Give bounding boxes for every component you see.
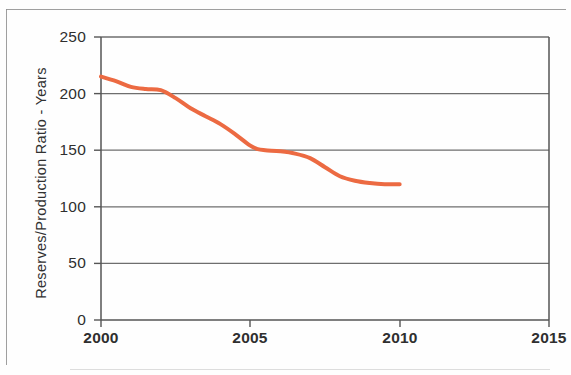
x-tick-label-2015: 2015 [514,329,571,347]
x-tick-label-2000: 2000 [66,329,136,347]
y-axis-title: Reserves/Production Ratio - Years [33,48,49,318]
gridlines [101,37,549,263]
y-axis-ticks [94,37,101,320]
x-tick-label-2010: 2010 [365,329,435,347]
x-axis-ticks [101,320,549,327]
series-line-reserves-production-ratio [101,77,400,185]
y-tick-label-250: 250 [40,28,86,46]
line-chart: 250 200 150 100 50 0 2000 2005 2010 2015… [0,0,571,375]
figure-root: 250 200 150 100 50 0 2000 2005 2010 2015… [0,0,571,375]
x-tick-label-2005: 2005 [215,329,285,347]
axis-spines [101,37,549,320]
